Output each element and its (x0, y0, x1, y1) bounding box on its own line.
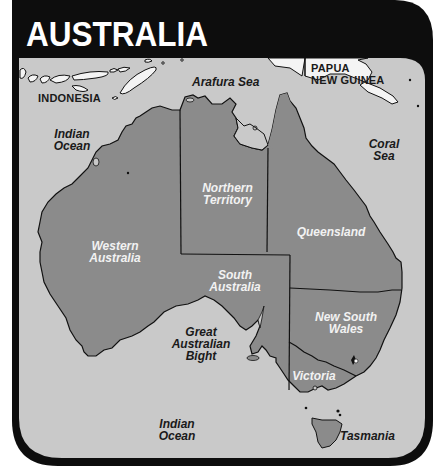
label-western-australia-2: Australia (80, 252, 150, 264)
label-victoria: Victoria (286, 370, 342, 382)
label-new-guinea: NEW GUINEA (311, 75, 385, 86)
label-indonesia: INDONESIA (38, 93, 101, 104)
map-title: AUSTRALIA (26, 14, 208, 54)
label-queensland: Queensland (288, 226, 374, 238)
label-indian-ocean-north-2: Ocean (52, 140, 92, 152)
label-bight-3: Bight (166, 350, 236, 362)
label-papua: PAPUA (311, 63, 350, 74)
australia-map: AUSTRALIA INDONESIA PAPUA NEW GUINEA Ara… (0, 0, 439, 468)
label-tasmania: Tasmania (340, 430, 395, 442)
label-northern-territory-2: Territory (190, 194, 265, 206)
label-arafura-sea: Arafura Sea (192, 76, 259, 88)
label-nsw-2: Wales (308, 323, 384, 335)
label-indian-ocean-south-2: Ocean (155, 430, 199, 442)
label-south-australia-2: Australia (200, 281, 270, 293)
label-coral-sea-2: Sea (364, 150, 404, 162)
